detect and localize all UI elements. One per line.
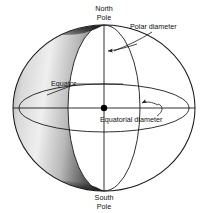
south-pole-label-line1: South bbox=[95, 193, 114, 202]
equatorial-diameter-arrow bbox=[142, 102, 158, 105]
polar-diameter-label: Polar diameter bbox=[130, 22, 177, 31]
equator-label: Equator bbox=[51, 79, 77, 88]
north-pole-label-line1: North bbox=[95, 4, 113, 13]
earth-diagram: North Pole South Pole Equator Polar diam… bbox=[0, 0, 208, 213]
earth-sphere-svg: North Pole South Pole Equator Polar diam… bbox=[0, 0, 208, 213]
equatorial-diameter-label: Equatorial diameter bbox=[100, 115, 163, 124]
south-pole-label-line2: Pole bbox=[97, 202, 111, 211]
center-dot bbox=[101, 105, 107, 111]
north-pole-label-line2: Pole bbox=[97, 13, 111, 22]
